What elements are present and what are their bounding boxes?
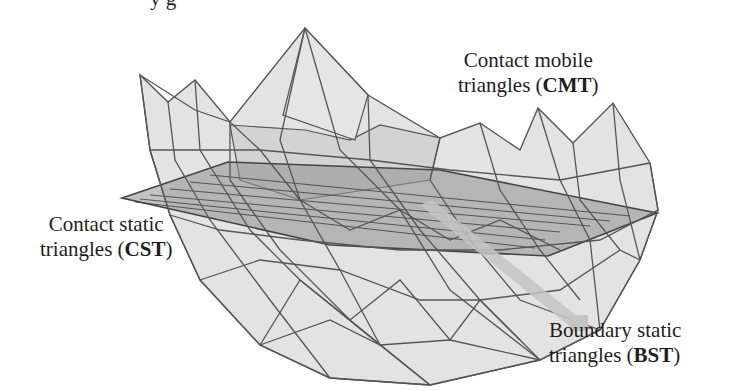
label-prefix: triangles ( [549, 343, 634, 367]
label-suffix: ) [165, 237, 172, 261]
label-contact-mobile-triangles: Contact mobile triangles (CMT) [458, 48, 599, 98]
label-prefix: triangles ( [458, 73, 543, 97]
label-line-2: triangles (CMT) [458, 73, 599, 98]
label-line-2: triangles (CST) [40, 237, 172, 262]
label-suffix: ) [592, 73, 599, 97]
label-contact-static-triangles: Contact static triangles (CST) [40, 212, 172, 262]
label-line-2: triangles (BST) [549, 343, 681, 368]
figure: y g [0, 0, 741, 391]
label-abbr: CST [125, 237, 166, 261]
label-prefix: triangles ( [40, 237, 125, 261]
label-abbr: BST [634, 343, 674, 367]
label-line-1: Boundary static [549, 318, 681, 343]
label-suffix: ) [673, 343, 680, 367]
label-abbr: CMT [543, 73, 592, 97]
label-line-1: Contact static [40, 212, 172, 237]
label-line-1: Contact mobile [458, 48, 599, 73]
label-boundary-static-triangles: Boundary static triangles (BST) [549, 318, 681, 368]
